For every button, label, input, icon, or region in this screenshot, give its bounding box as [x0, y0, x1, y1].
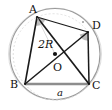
vertex-dot-C — [88, 83, 90, 85]
vertex-label-b: B — [10, 79, 18, 90]
side-AB — [25, 17, 37, 84]
vertex-dot-D — [87, 31, 89, 33]
vertex-dot-B — [24, 83, 26, 85]
center-point-O — [53, 52, 57, 56]
side-DA — [37, 17, 88, 32]
diameter-label-2r: 2R — [38, 39, 53, 50]
chord-label-a: a — [57, 88, 63, 98]
center-label-o: O — [53, 62, 62, 73]
vertex-label-d: D — [92, 20, 101, 31]
vertex-label-c: C — [92, 80, 100, 91]
geometry-canvas — [0, 0, 112, 110]
vertex-dot-A — [36, 16, 38, 18]
geometry-figure: A D B C O 2R a — [0, 0, 112, 110]
tick-near-D — [82, 21, 84, 23]
vertex-label-a: A — [29, 4, 37, 15]
diagonal-BD — [25, 32, 88, 84]
side-CD — [88, 32, 89, 84]
